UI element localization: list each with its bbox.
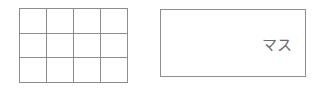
grid-cell: [20, 9, 46, 33]
grid-cell: [47, 34, 73, 58]
figure-canvas: マス: [0, 0, 322, 93]
grid-cell: [74, 58, 100, 82]
grid-cell: [47, 9, 73, 33]
grid-cell: [20, 34, 46, 58]
grid-cell: [101, 34, 127, 58]
grid-cell: [74, 9, 100, 33]
grid-cell: [101, 9, 127, 33]
grid-cell: [20, 58, 46, 82]
grid-cell: [101, 58, 127, 82]
grid-diagram: [19, 8, 128, 83]
grid-cell: [74, 34, 100, 58]
rectangle-label: マス: [262, 37, 292, 53]
grid-cell: [47, 58, 73, 82]
rectangle-diagram: マス: [160, 9, 306, 77]
